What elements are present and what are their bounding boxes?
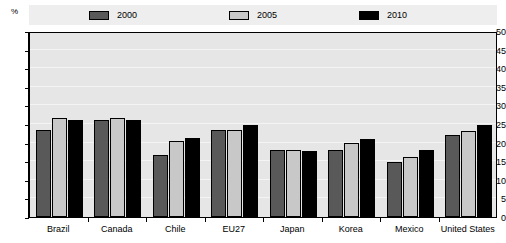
- y-axis-tick-label: 15: [482, 158, 506, 167]
- x-axis-label-mexico: Mexico: [395, 225, 424, 234]
- bar-mexico-2005: [403, 157, 418, 217]
- bar-group-eu27: [206, 33, 265, 217]
- bar-united-states-2000: [445, 135, 460, 217]
- x-axis-tick-mark: [88, 218, 89, 222]
- x-axis-label-eu27: EU27: [222, 225, 245, 234]
- y-axis-tick-label: 0: [482, 214, 506, 223]
- y-axis-tick-label: 5: [482, 195, 506, 204]
- y-axis-tick-mark: [25, 144, 29, 145]
- x-axis-label-united-states: United States: [441, 225, 495, 234]
- y-axis-tick-mark: [25, 106, 29, 107]
- plot-area: [29, 32, 497, 218]
- bar-group-canada: [89, 33, 148, 217]
- x-axis-tick-mark: [146, 218, 147, 222]
- chart-legend: 200020052010: [29, 5, 497, 25]
- y-axis-tick-label: 20: [482, 139, 506, 148]
- bar-brazil-2005: [52, 118, 67, 217]
- bar-eu27-2005: [227, 130, 242, 217]
- bar-mexico-2000: [387, 162, 402, 217]
- y-axis-tick-mark: [25, 88, 29, 89]
- y-axis-tick-mark: [25, 218, 29, 219]
- y-axis-tick-label: 10: [482, 176, 506, 185]
- bar-korea-2000: [328, 150, 343, 217]
- legend-label-2005: 2005: [257, 11, 277, 20]
- bar-chart: 200020052010 % 05101520253035404550Brazi…: [0, 0, 506, 243]
- bar-group-korea: [323, 33, 382, 217]
- x-axis-label-canada: Canada: [101, 225, 133, 234]
- y-axis-tick-label: 30: [482, 102, 506, 111]
- x-axis-label-chile: Chile: [165, 225, 186, 234]
- x-axis-tick-mark: [205, 218, 206, 222]
- bar-chile-2010: [185, 138, 200, 217]
- bar-japan-2000: [270, 150, 285, 217]
- bar-brazil-2000: [36, 130, 51, 217]
- bar-canada-2000: [94, 120, 109, 217]
- bar-japan-2005: [286, 150, 301, 217]
- y-axis-tick-label: 50: [482, 28, 506, 37]
- legend-item-2005[interactable]: 2005: [229, 11, 277, 20]
- y-axis-tick-label: 35: [482, 83, 506, 92]
- x-axis-label-japan: Japan: [280, 225, 305, 234]
- x-axis-tick-mark: [322, 218, 323, 222]
- x-axis-tick-mark: [380, 218, 381, 222]
- bar-korea-2005: [344, 143, 359, 217]
- y-axis-tick-mark: [25, 32, 29, 33]
- legend-swatch-icon-2005: [229, 11, 249, 20]
- y-axis-tick-label: 25: [482, 121, 506, 130]
- y-axis-tick-mark: [25, 181, 29, 182]
- bar-korea-2010: [360, 139, 375, 217]
- y-axis-tick-mark: [25, 162, 29, 163]
- y-axis-tick-mark: [25, 69, 29, 70]
- bar-chile-2000: [153, 155, 168, 217]
- x-axis-label-brazil: Brazil: [47, 225, 70, 234]
- bar-mexico-2010: [419, 150, 434, 217]
- y-axis-tick-label: 40: [482, 65, 506, 74]
- bar-canada-2005: [110, 118, 125, 217]
- bar-group-mexico: [381, 33, 440, 217]
- y-axis-tick-mark: [25, 199, 29, 200]
- bar-group-chile: [147, 33, 206, 217]
- y-axis-unit-label: %: [11, 7, 18, 16]
- bar-eu27-2000: [211, 130, 226, 217]
- bar-united-states-2005: [461, 131, 476, 217]
- legend-item-2010[interactable]: 2010: [359, 11, 407, 20]
- legend-label-2010: 2010: [387, 11, 407, 20]
- y-axis-tick-mark: [25, 51, 29, 52]
- bar-japan-2010: [302, 151, 317, 217]
- bar-group-japan: [264, 33, 323, 217]
- y-axis-tick-label: 45: [482, 46, 506, 55]
- x-axis-tick-mark: [263, 218, 264, 222]
- x-axis-label-korea: Korea: [339, 225, 363, 234]
- legend-label-2000: 2000: [117, 11, 137, 20]
- x-axis-tick-mark: [439, 218, 440, 222]
- legend-swatch-icon-2010: [359, 11, 379, 20]
- bar-eu27-2010: [243, 125, 258, 217]
- bar-brazil-2010: [68, 120, 83, 217]
- legend-swatch-icon-2000: [89, 11, 109, 20]
- bar-chile-2005: [169, 141, 184, 217]
- bar-group-brazil: [30, 33, 89, 217]
- legend-item-2000[interactable]: 2000: [89, 11, 137, 20]
- y-axis-tick-mark: [25, 125, 29, 126]
- bar-canada-2010: [126, 120, 141, 217]
